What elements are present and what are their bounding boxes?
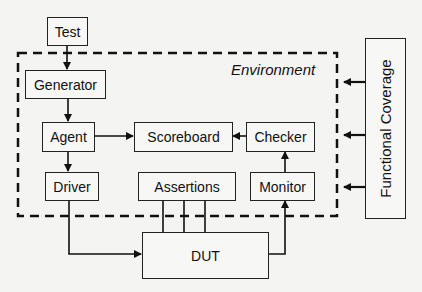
block-agent: Agent [42,122,95,152]
environment-label: Environment [231,61,315,78]
functional-coverage-label: Functional Coverage [377,59,394,197]
block-generator: Generator [25,70,106,99]
block-dut: DUT [142,232,269,279]
block-test: Test [47,17,88,46]
block-functional-coverage: Functional Coverage [365,38,406,219]
edge-dut-monitor [268,201,285,254]
block-checker: Checker [246,122,315,152]
block-driver: Driver [45,172,99,201]
block-scoreboard: Scoreboard [134,122,233,152]
edge-driver-dut [69,200,141,254]
block-monitor: Monitor [250,172,315,201]
block-assertions: Assertions [138,172,236,201]
